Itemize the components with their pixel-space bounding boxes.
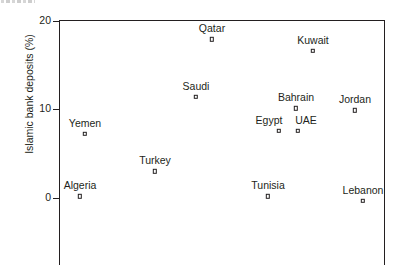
- data-point-label: UAE: [295, 115, 317, 126]
- data-point: [294, 106, 298, 110]
- data-point-label: Jordan: [339, 94, 371, 105]
- data-point: [83, 132, 87, 136]
- data-point-label: Kuwait: [297, 35, 329, 46]
- data-point-label: Yemen: [69, 118, 101, 129]
- data-point-label: Lebanon: [343, 185, 384, 196]
- data-point: [353, 108, 357, 112]
- data-point-label: Turkey: [139, 155, 171, 166]
- data-point: [194, 95, 198, 99]
- data-point-label: Egypt: [256, 115, 283, 126]
- data-point-label: Qatar: [199, 23, 225, 34]
- data-point-label: Saudi: [183, 81, 210, 92]
- data-point: [296, 128, 300, 132]
- y-tick-label: 0: [13, 192, 51, 203]
- data-point: [311, 48, 315, 52]
- data-point: [277, 128, 281, 132]
- data-point: [210, 37, 214, 41]
- y-axis-title: Islamic bank deposits (%): [23, 0, 35, 189]
- scatter-chart: Islamic bank deposits (%) 20100 QatarKuw…: [0, 0, 402, 265]
- data-point: [153, 169, 157, 173]
- data-point: [266, 194, 270, 198]
- data-point-label: Tunisia: [251, 180, 284, 191]
- y-tick-label: 20: [13, 15, 51, 26]
- plot-area: [59, 20, 385, 265]
- data-point-label: Algeria: [64, 180, 97, 191]
- data-point-label: Bahrain: [278, 92, 314, 103]
- y-tick-label: 10: [13, 103, 51, 114]
- data-point: [78, 194, 82, 198]
- data-point: [361, 198, 365, 202]
